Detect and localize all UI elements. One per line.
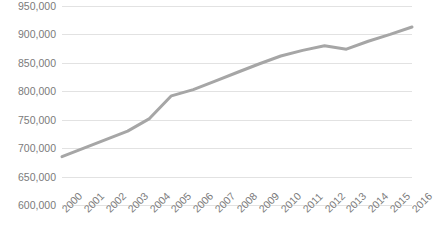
- x-tick-label: 2016: [410, 190, 434, 214]
- data-series-line: [62, 6, 412, 205]
- y-tick-label: 750,000: [18, 115, 56, 125]
- y-tick-label: 700,000: [18, 143, 56, 153]
- y-tick-label: 800,000: [18, 86, 56, 96]
- line-chart: 950,000900,000850,000800,000750,000700,0…: [0, 0, 448, 245]
- y-tick-label: 950,000: [18, 1, 56, 11]
- y-tick-label: 850,000: [18, 58, 56, 68]
- y-tick-label: 900,000: [18, 29, 56, 39]
- plot-area: [62, 6, 412, 205]
- y-tick-label: 600,000: [18, 200, 56, 210]
- y-tick-label: 650,000: [18, 172, 56, 182]
- chart-title: [0, 0, 448, 3]
- y-axis: 950,000900,000850,000800,000750,000700,0…: [0, 6, 56, 205]
- series-line: [62, 27, 412, 157]
- x-axis: 2000200120022003200420052006200720082009…: [62, 207, 412, 245]
